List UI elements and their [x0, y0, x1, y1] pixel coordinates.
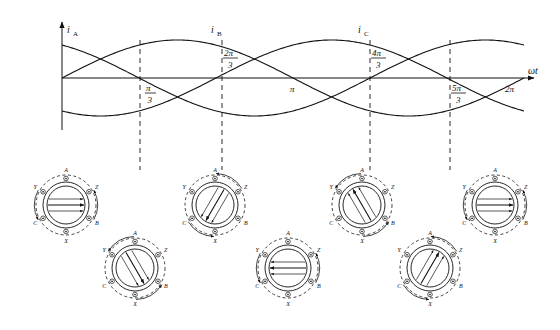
coil-terminal-label: Z — [95, 184, 99, 190]
coil-slot-dot — [42, 217, 44, 219]
coil-slot-dot — [452, 254, 454, 256]
coil-terminal-label: Y — [256, 247, 260, 253]
magnetic-field-arrow — [416, 250, 433, 279]
coil-slot-dot — [429, 241, 431, 243]
coil-slot-dot — [338, 217, 340, 219]
label-iB-main: i — [211, 24, 214, 35]
coil-terminal-label: X — [359, 238, 364, 244]
tick-4pi-3-den: 3 — [375, 60, 381, 70]
coil-slot-dot — [157, 280, 159, 282]
coil-terminal-label: Z — [524, 184, 528, 190]
coil-terminal-label: Y — [330, 184, 334, 190]
coil-diagram-7: AZBXCY — [462, 167, 528, 244]
coil-terminal-label: B — [164, 283, 168, 289]
coil-terminal-label: A — [359, 167, 364, 173]
coil-slot-dot — [88, 191, 90, 193]
coil-terminal-label: Z — [244, 184, 248, 190]
coil-slot-dot — [88, 217, 90, 219]
coil-diagram-4: AZBXCY — [255, 230, 321, 307]
coil-terminal-label: C — [182, 220, 187, 226]
coil-slot-dot — [384, 217, 386, 219]
coil-slot-dot — [517, 217, 519, 219]
label-iC-sub: C — [364, 30, 369, 38]
coil-terminal-label: Y — [398, 247, 402, 253]
tick-pi-3-num: π — [146, 83, 151, 93]
coil-terminal-label: Y — [463, 184, 467, 190]
coil-slot-dot — [134, 294, 136, 296]
coil-slot-dot — [287, 294, 289, 296]
coil-slot-dot — [494, 231, 496, 233]
coil-diagram-2: AZBXCY — [102, 230, 168, 307]
coil-slot-dot — [65, 231, 67, 233]
magnetic-field-arrow — [359, 187, 376, 216]
coil-terminal-label: A — [427, 230, 432, 236]
coil-slot-dot — [237, 217, 239, 219]
coil-terminal-label: C — [255, 283, 260, 289]
coil-terminal-label: A — [285, 230, 290, 236]
dropline-group — [140, 40, 450, 170]
coil-slot-dot — [517, 191, 519, 193]
tick-2pi: 2π — [505, 84, 515, 94]
label-iC-main: i — [358, 24, 361, 35]
coil-slot-dot — [310, 280, 312, 282]
tick-pi: π — [290, 84, 295, 94]
winding-current-arc-arrow — [108, 237, 134, 252]
coil-terminal-label: B — [95, 220, 99, 226]
magnetic-field-arrow — [427, 256, 444, 285]
coil-terminal-label: C — [462, 220, 467, 226]
coil-terminal-label: Z — [317, 247, 321, 253]
tick-2pi-3-den: 3 — [227, 60, 233, 70]
coil-terminal-label: A — [212, 167, 217, 173]
coil-slot-dot — [406, 280, 408, 282]
coil-slot-dot — [157, 254, 159, 256]
coil-diagram-5: AZBXCY — [329, 167, 395, 244]
coil-terminal-label: A — [63, 167, 68, 173]
coil-terminal-label: C — [33, 220, 38, 226]
coil-terminal-label: B — [524, 220, 528, 226]
coil-slot-dot — [111, 254, 113, 256]
waveform-and-coils-diagram: π 3 2π 3 π 4π 3 5π 3 2π — [0, 0, 560, 330]
magnetic-field-arrow — [212, 193, 229, 222]
coil-diagram-6: AZBXCY — [397, 230, 463, 307]
coil-slot-dot — [452, 280, 454, 282]
coil-terminal-label: B — [391, 220, 395, 226]
coil-terminal-label: B — [459, 283, 463, 289]
tick-4pi-3-num: 4π — [372, 48, 382, 58]
magnetic-field-arrow — [353, 189, 371, 220]
figure-root: π 3 2π 3 π 4π 3 5π 3 2π — [0, 0, 560, 330]
coil-slot-dot — [191, 191, 193, 193]
winding-current-arc-arrow — [136, 285, 162, 300]
coil-slot-dot — [384, 191, 386, 193]
coil-terminal-label: X — [212, 238, 217, 244]
axis-group — [62, 22, 534, 130]
coil-slot-dot — [338, 191, 340, 193]
label-iA-main: i — [67, 24, 70, 35]
coil-terminal-label: C — [329, 220, 334, 226]
coil-terminal-label: X — [492, 238, 497, 244]
coil-terminal-label: Y — [34, 184, 38, 190]
coil-terminal-label: Y — [103, 247, 107, 253]
coil-terminal-label: X — [427, 301, 432, 307]
coil-slot-dot — [214, 231, 216, 233]
coil-slot-dot — [361, 178, 363, 180]
tick-pi-3-den: 3 — [147, 95, 153, 105]
coil-diagram-group: AZBXCYAZBXCYAZBXCYAZBXCYAZBXCYAZBXCYAZBX… — [33, 167, 528, 307]
coil-terminal-label: Z — [459, 247, 463, 253]
coil-terminal-label: B — [244, 220, 248, 226]
coil-slot-dot — [264, 280, 266, 282]
winding-current-arc-arrow — [363, 222, 389, 237]
coil-slot-dot — [191, 217, 193, 219]
magnetic-field-arrow — [126, 252, 144, 283]
label-iB-sub: B — [217, 30, 222, 38]
magnetic-field-arrow — [201, 187, 218, 216]
magnetic-field-arrow — [348, 193, 365, 222]
label-iA: i A — [67, 24, 78, 38]
coil-terminal-label: Z — [391, 184, 395, 190]
magnetic-field-arrow — [421, 252, 439, 283]
coil-slot-dot — [134, 241, 136, 243]
coil-terminal-label: X — [63, 238, 68, 244]
coil-slot-dot — [361, 231, 363, 233]
coil-terminal-label: B — [317, 283, 321, 289]
tick-5pi-3-num: 5π — [452, 83, 462, 93]
coil-terminal-label: Z — [164, 247, 168, 253]
